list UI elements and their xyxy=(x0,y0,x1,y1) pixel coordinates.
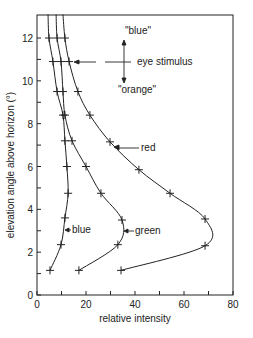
y-tick-label: 4 xyxy=(27,204,33,215)
plus-marker-icon xyxy=(59,88,67,96)
y-tick-label: 0 xyxy=(27,290,33,301)
plus-marker-icon xyxy=(63,163,71,171)
plus-marker-icon xyxy=(68,137,76,145)
chart: 020406080024681012 relative intensity el… xyxy=(0,0,253,338)
blue-direction-label: "blue" xyxy=(125,25,151,36)
y-axis-label: elevation angle above horizon (°) xyxy=(5,92,16,238)
x-tick-label: 20 xyxy=(80,299,92,310)
plus-marker-icon xyxy=(46,266,54,274)
plus-marker-icon xyxy=(64,189,72,197)
green-curve-label: green xyxy=(135,225,161,236)
y-tick-label: 6 xyxy=(27,162,33,173)
data-markers xyxy=(45,34,209,274)
plus-marker-icon xyxy=(75,266,83,274)
eye-stimulus-crosshair-icon xyxy=(105,40,131,83)
x-tick-label: 0 xyxy=(34,299,40,310)
x-tick-label: 80 xyxy=(227,299,239,310)
red-curve-label: red xyxy=(141,142,155,153)
plus-marker-icon xyxy=(45,34,53,42)
plus-marker-icon xyxy=(201,242,209,250)
plus-marker-icon xyxy=(61,214,69,222)
plus-marker-icon xyxy=(49,58,57,66)
plus-marker-icon xyxy=(65,58,73,66)
plus-marker-icon xyxy=(118,216,126,224)
plus-marker-icon xyxy=(117,266,125,274)
plus-marker-icon xyxy=(61,137,69,145)
y-tick-label: 10 xyxy=(22,76,34,87)
red-label-pointer-icon xyxy=(114,145,139,150)
x-axis-label: relative intensity xyxy=(99,313,171,324)
plus-marker-icon xyxy=(57,241,65,249)
blue-curve-label: blue xyxy=(72,224,91,235)
plus-marker-icon xyxy=(74,88,82,96)
y-tick-label: 12 xyxy=(22,33,34,44)
plus-marker-icon xyxy=(82,163,90,171)
orange-direction-label: "orange" xyxy=(118,84,157,95)
x-tick-label: 60 xyxy=(178,299,190,310)
plus-marker-icon xyxy=(97,189,105,197)
y-tick-label: 8 xyxy=(27,119,33,130)
x-tick-label: 40 xyxy=(129,299,141,310)
plus-marker-icon xyxy=(166,189,174,197)
eye-stimulus-label: eye stimulus xyxy=(137,56,193,67)
plus-marker-icon xyxy=(53,34,61,42)
y-tick-label: 2 xyxy=(27,247,33,258)
green-label-pointer-icon xyxy=(124,229,134,233)
eye-stimulus-arrow-icon xyxy=(74,60,96,64)
plus-marker-icon xyxy=(86,111,94,119)
plus-marker-icon xyxy=(61,34,69,42)
blue-label-pointer-icon xyxy=(65,228,71,232)
plus-marker-icon xyxy=(57,58,65,66)
